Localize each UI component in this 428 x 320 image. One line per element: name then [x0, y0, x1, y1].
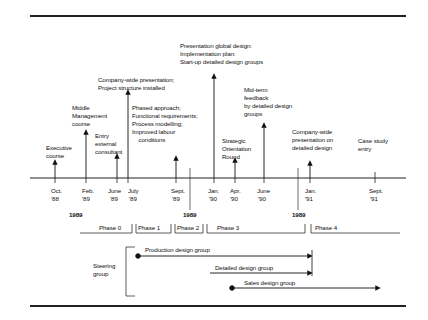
tick-jan91-year: '91	[305, 195, 313, 203]
tick-jun89-month: June	[108, 187, 121, 195]
event-strategic: Strategic Orientation Round	[222, 137, 251, 161]
event-phased: Phased approach; Functional requirements…	[132, 104, 198, 144]
tick-apr90-month: Apr.	[230, 187, 241, 195]
year-marker-2: 1989	[183, 211, 196, 219]
phase-1: Phase 1	[138, 224, 160, 232]
event-global-design: Presentation global design: Implementati…	[180, 42, 263, 66]
tick-jan90-year: '90	[209, 195, 217, 203]
tick-feb89-month: Feb.	[82, 187, 94, 195]
tick-sep89-month: Sept.	[171, 187, 185, 195]
year-marker-3: 1989	[292, 211, 305, 219]
tick-sep91-year: '91	[370, 195, 378, 203]
year-dividers	[190, 168, 298, 210]
tick-jan90-month: Jan.	[208, 187, 219, 195]
event-company-wide-2: Company-wide presentation on detailed de…	[292, 128, 333, 152]
detailed-design-group: Detailed design group	[215, 264, 273, 272]
event-case-study: Case study entry	[358, 137, 388, 153]
tick-oct88-year: '88	[51, 195, 59, 203]
production-design-group: Production design group	[145, 246, 210, 254]
phase-3: Phase 3	[217, 224, 239, 232]
tick-jun90-year: '90	[258, 195, 266, 203]
phase-2: Phase 2	[177, 224, 199, 232]
event-midterm: Mid-term feedback by detailed design gro…	[244, 86, 292, 118]
tick-jul89-year: '89	[129, 195, 137, 203]
tick-oct88-month: Oct.	[51, 187, 62, 195]
tick-apr90-year: '90	[230, 195, 238, 203]
year-marker-1: 1989	[69, 211, 82, 219]
tick-sep91-month: Sept.	[369, 187, 383, 195]
steering-bracket	[126, 247, 135, 296]
tick-feb89-year: '89	[82, 195, 90, 203]
event-executive: Executive course	[46, 144, 72, 160]
sales-design-group: Sales design group	[244, 279, 295, 287]
tick-jan91-month: Jan.	[305, 187, 316, 195]
tick-sep89-year: '89	[172, 195, 180, 203]
event-company-wide-1: Company-wide presentation; Project struc…	[98, 76, 174, 92]
phase-4: Phase 4	[315, 224, 337, 232]
steering-group-label: Steering group	[93, 262, 115, 278]
phase-brackets	[80, 224, 400, 233]
tick-jul89-month: July	[128, 187, 139, 195]
tick-jun89-year: '89	[110, 195, 118, 203]
event-entry-consultant: Entry external consultant	[95, 132, 122, 156]
phase-0: Phase 0	[99, 224, 121, 232]
tick-jun90-month: June	[257, 187, 270, 195]
event-middle-mgmt: Middle Management course	[72, 104, 107, 128]
